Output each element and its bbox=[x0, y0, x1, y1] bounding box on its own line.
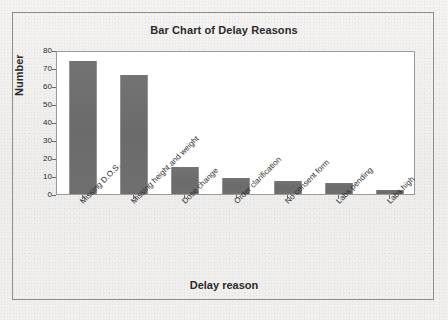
x-tick-mark bbox=[389, 195, 390, 199]
bar-slot bbox=[57, 52, 108, 194]
y-tick-label: 50 bbox=[32, 101, 52, 109]
bar[interactable] bbox=[69, 61, 96, 194]
y-axis-tick-labels: 01020304050607080 bbox=[28, 51, 52, 195]
y-tick-mark bbox=[52, 195, 56, 196]
figure-canvas: Bar Chart of Delay Reasons Number 010203… bbox=[0, 0, 448, 320]
y-tick-label: 20 bbox=[32, 155, 52, 163]
x-tick-mark bbox=[338, 195, 339, 199]
bar[interactable] bbox=[120, 75, 147, 194]
x-tick-mark bbox=[82, 195, 83, 199]
chart-title: Bar Chart of Delay Reasons bbox=[0, 24, 448, 36]
y-tick-label: 10 bbox=[32, 173, 52, 181]
y-axis-title: Number bbox=[13, 54, 25, 96]
y-tick-mark bbox=[52, 177, 56, 178]
y-tick-label: 80 bbox=[32, 47, 52, 55]
x-tick-mark bbox=[133, 195, 134, 199]
y-tick-mark bbox=[52, 123, 56, 124]
y-tick-mark bbox=[52, 141, 56, 142]
y-tick-label: 60 bbox=[32, 83, 52, 91]
x-tick-mark bbox=[236, 195, 237, 199]
y-tick-label: 40 bbox=[32, 119, 52, 127]
y-tick-label: 30 bbox=[32, 137, 52, 145]
y-tick-mark bbox=[52, 159, 56, 160]
x-axis-title: Delay reason bbox=[0, 279, 448, 291]
x-tick-mark bbox=[287, 195, 288, 199]
y-tick-mark bbox=[52, 51, 56, 52]
y-tick-label: 70 bbox=[32, 65, 52, 73]
y-tick-mark bbox=[52, 105, 56, 106]
x-tick-mark bbox=[184, 195, 185, 199]
y-tick-mark bbox=[52, 87, 56, 88]
y-tick-mark bbox=[52, 69, 56, 70]
y-tick-label: 0 bbox=[32, 191, 52, 199]
